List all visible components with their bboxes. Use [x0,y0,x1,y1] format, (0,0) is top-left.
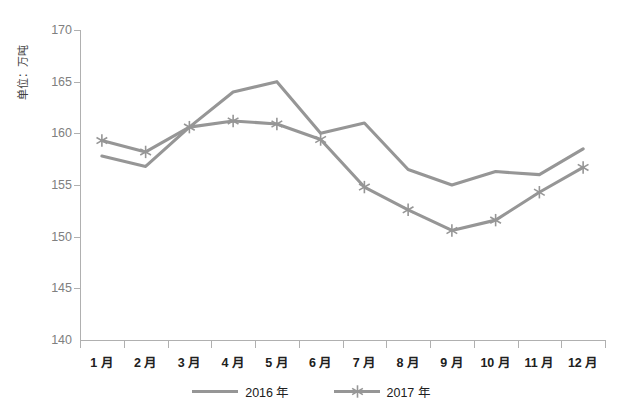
y-tick-label: 150 [38,231,72,243]
y-tick-label: 165 [38,76,72,88]
y-tick-label: 170 [38,24,72,36]
bottom-caption [0,409,623,417]
legend-swatch-icon [334,385,380,397]
x-tick-mark [168,341,169,348]
x-tick-mark [299,341,300,348]
y-tick-mark [74,133,81,134]
data-point-marker [403,204,414,216]
x-tick-mark [518,341,519,348]
line-chart: 单位：万吨 140145150155160165170 1 月2 月3 月4 月… [0,0,623,417]
y-tick-mark [74,288,81,289]
x-tick-mark [474,341,475,348]
data-point-marker [534,186,545,198]
data-point-marker [97,134,108,146]
series-line-1 [102,82,583,185]
y-axis-title: 单位：万吨 [14,17,30,127]
data-point-marker [315,133,326,145]
x-tick-mark [430,341,431,348]
y-tick-mark [74,30,81,31]
y-axis-tick-labels: 140145150155160165170 [38,0,72,417]
data-point-marker [184,121,195,133]
data-point-marker [352,385,363,397]
y-tick-mark [74,185,81,186]
data-point-marker [272,118,283,130]
asterisk-marker-icon [350,384,365,399]
x-tick-mark [343,341,344,348]
y-tick-label: 140 [38,334,72,346]
data-point-marker [578,161,589,173]
legend-entry-1[interactable]: 2016 年 [192,382,289,401]
chart-legend: 2016 年2017 年 [0,381,623,401]
x-tick-mark [561,341,562,348]
x-tick-label: 12 月 [553,352,613,371]
y-tick-mark [74,82,81,83]
data-point-marker [490,214,501,226]
x-tick-mark [124,341,125,348]
x-tick-mark [80,341,81,348]
x-tick-mark [605,341,606,348]
legend-label: 2016 年 [245,382,289,401]
x-tick-mark [255,341,256,348]
series-line-2 [102,121,583,231]
y-tick-label: 160 [38,127,72,139]
legend-entry-2[interactable]: 2017 年 [334,382,431,401]
legend-label: 2017 年 [387,382,431,401]
y-tick-label: 155 [38,179,72,191]
legend-swatch-icon [192,385,238,397]
data-point-marker [140,146,151,158]
data-point-marker [228,115,239,127]
y-tick-mark [74,237,81,238]
x-tick-mark [386,341,387,348]
data-point-marker [447,224,458,236]
x-tick-mark [211,341,212,348]
data-point-marker [359,181,370,193]
y-tick-label: 145 [38,282,72,294]
